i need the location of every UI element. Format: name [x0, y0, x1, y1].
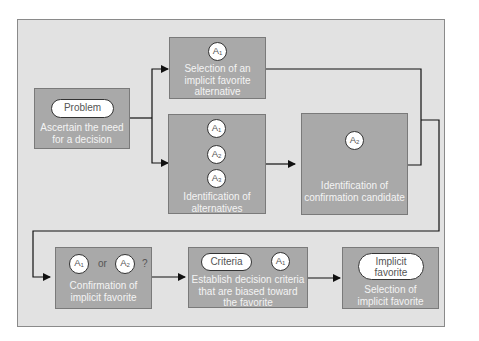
criteria-box: Criteria A1 Establish decision criteria … [188, 247, 308, 308]
circle-subscript: 1 [282, 260, 285, 266]
circle-subscript: 1 [219, 50, 222, 56]
pill-line1: Implicit [359, 256, 423, 267]
identification-candidate-line1: Identification of [302, 180, 407, 192]
circle-subscript: 3 [218, 177, 221, 183]
selection-implicit-line2: implicit favorite [170, 75, 265, 87]
identification-alternatives-line2: alternatives [169, 203, 265, 215]
confirmation-box: A1 or A2 ? Confirmation of implicit favo… [55, 247, 152, 309]
criteria-pill: Criteria [201, 253, 252, 271]
identification-candidate-box: A2 Identification of confirmation candid… [301, 113, 408, 215]
problem-label-line1: Ascertain the need [35, 122, 129, 134]
selection-implicit-line3: alternative [170, 86, 265, 98]
confirmation-line2: implicit favorite [56, 292, 151, 304]
circle-subscript: 2 [127, 262, 130, 268]
circle-subscript: 1 [218, 127, 221, 133]
final-selection-box: Implicit favorite Selection of implicit … [342, 247, 439, 309]
identification-candidate-line2: confirmation candidate [302, 192, 407, 204]
or-text: or [98, 258, 107, 270]
alternative-a2-circle: A2 [345, 131, 364, 150]
identification-alternatives-box: A1 A2 A3 Identification of alternatives [168, 114, 266, 214]
question-mark: ? [142, 258, 148, 270]
criteria-line3: the favorite [189, 297, 307, 309]
alternative-a1-circle: A1 [69, 254, 89, 274]
implicit-favorite-pill: Implicit favorite [358, 253, 424, 280]
circle-subscript: 1 [81, 262, 84, 268]
alternative-a2-circle: A2 [115, 254, 135, 274]
problem-pill: Problem [51, 99, 114, 118]
selection-implicit-line1: Selection of an [170, 63, 265, 75]
alternative-a2-circle: A2 [207, 145, 226, 164]
final-selection-line2: implicit favorite [343, 296, 438, 308]
criteria-line1: Establish decision criteria [189, 274, 307, 286]
alternative-a1-circle: A1 [271, 252, 290, 271]
alternative-a3-circle: A3 [207, 169, 226, 188]
circle-subscript: 2 [218, 153, 221, 159]
criteria-line2: that are biased toward [189, 286, 307, 298]
final-selection-line1: Selection of [343, 284, 438, 296]
problem-box: Problem Ascertain the need for a decisio… [34, 88, 130, 149]
pill-line2: favorite [359, 267, 423, 278]
confirmation-line1: Confirmation of [56, 280, 151, 292]
identification-alternatives-line1: Identification of [169, 191, 265, 203]
alternative-a1-circle: A1 [207, 119, 226, 138]
circle-subscript: 2 [356, 139, 359, 145]
selection-implicit-box: A1 Selection of an implicit favorite alt… [169, 37, 266, 99]
alternative-a1-circle: A1 [208, 42, 227, 61]
problem-label-line2: for a decision [35, 134, 129, 146]
